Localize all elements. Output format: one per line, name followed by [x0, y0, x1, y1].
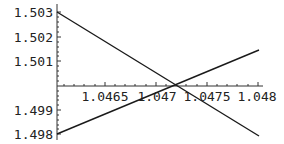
x-tick-label: 1.047 — [137, 89, 176, 104]
y-tick-label: 1.498 — [14, 127, 53, 142]
x-ticks — [64, 82, 258, 86]
y-tick-label: 1.499 — [14, 103, 53, 118]
y-tick-label: 1.502 — [14, 30, 53, 45]
y-ticks — [57, 12, 61, 134]
x-tick-label: 1.0465 — [82, 89, 129, 104]
y-tick-label: 1.503 — [14, 5, 53, 20]
series-decreasing-line — [57, 12, 259, 136]
line-chart: 1.503 1.502 1.501 1.499 1.498 1.0465 1.0… — [0, 0, 284, 144]
x-tick-label: 1.0475 — [184, 89, 231, 104]
y-tick-label: 1.501 — [14, 54, 53, 69]
x-tick-label: 1.048 — [237, 89, 276, 104]
